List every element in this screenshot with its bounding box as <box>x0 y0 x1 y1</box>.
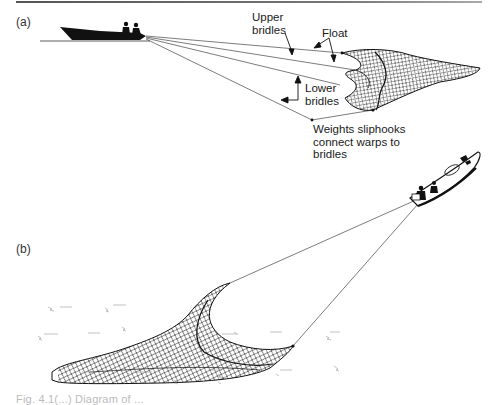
panel-a-label: (a) <box>16 16 31 29</box>
trawl-net-a <box>342 49 480 110</box>
weight-sliphook-marker <box>311 119 314 122</box>
weight-marker-b <box>291 344 294 347</box>
panel-b-label: (b) <box>16 243 31 256</box>
bridle-lines <box>146 36 373 120</box>
panel-a-scene <box>40 22 480 122</box>
weight-marker <box>371 108 374 111</box>
boat-b-icon <box>410 152 480 206</box>
trawl-net-b <box>52 283 293 384</box>
boat-icon <box>60 22 146 40</box>
float-marker <box>341 52 344 55</box>
upper-bridles-label: Upper bridles <box>252 11 286 36</box>
panel-b-scene <box>38 152 480 384</box>
lower-bridles-label: Lower bridles <box>305 82 339 107</box>
weights-sliphooks-label: Weights sliphooks connect warps to bridl… <box>313 123 405 161</box>
warp-lines <box>230 200 418 346</box>
figure-caption: Fig. 4.1(...) Diagram of ... <box>16 393 144 405</box>
float-label: Float <box>322 27 348 40</box>
